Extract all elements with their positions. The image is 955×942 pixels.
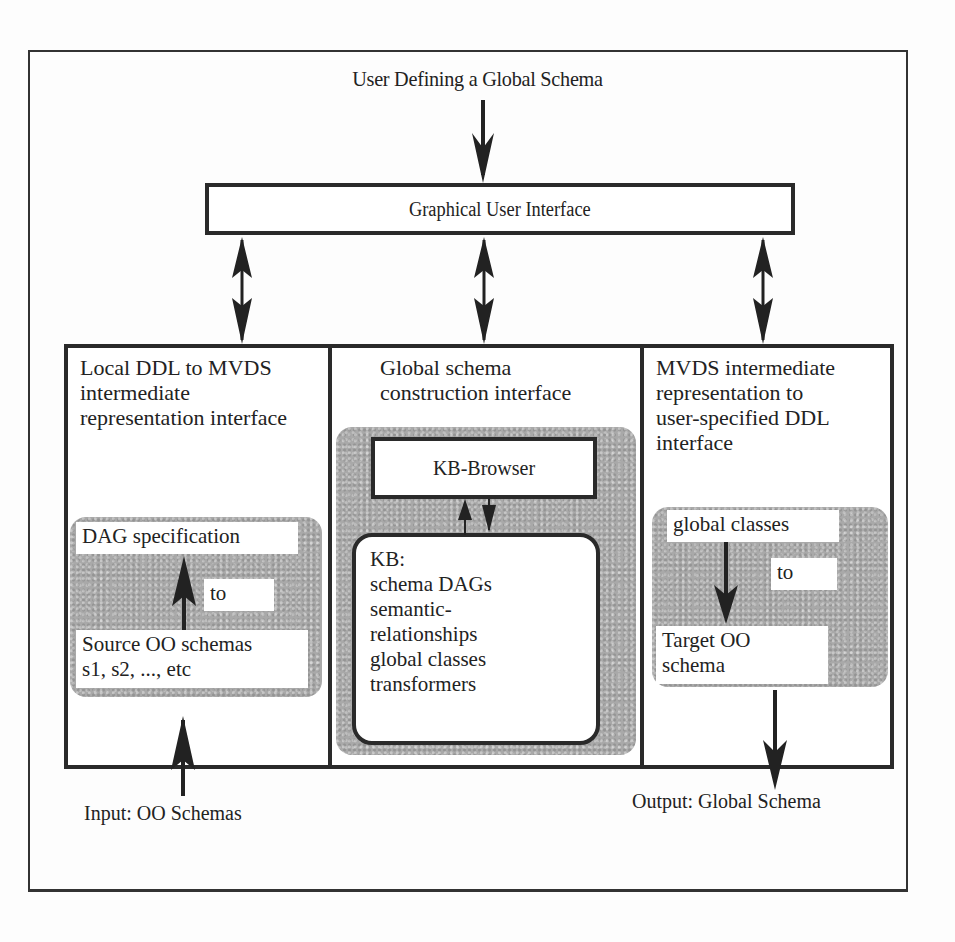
arrow-down-icon bbox=[714, 542, 738, 624]
bidirectional-arrow-icon bbox=[232, 237, 252, 344]
input-arrow-up-icon bbox=[171, 716, 195, 796]
arrows-layer bbox=[0, 0, 955, 942]
bidirectional-arrow-icon bbox=[753, 237, 773, 344]
bidirectional-arrow-icon bbox=[474, 237, 494, 344]
arrow-down-icon bbox=[482, 499, 496, 532]
output-arrow-down-icon bbox=[763, 690, 787, 790]
arrow-up-icon bbox=[172, 556, 196, 630]
arrow-up-icon bbox=[458, 499, 472, 535]
arrow-down-icon bbox=[472, 100, 494, 183]
